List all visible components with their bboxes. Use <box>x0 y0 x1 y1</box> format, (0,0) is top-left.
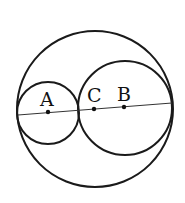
point-a <box>46 110 50 114</box>
label-b: B <box>117 83 131 105</box>
label-c: C <box>87 84 102 106</box>
label-a: A <box>39 88 54 110</box>
point-c <box>92 107 96 111</box>
geometry-diagram: A C B <box>0 0 185 203</box>
point-b <box>122 105 126 109</box>
